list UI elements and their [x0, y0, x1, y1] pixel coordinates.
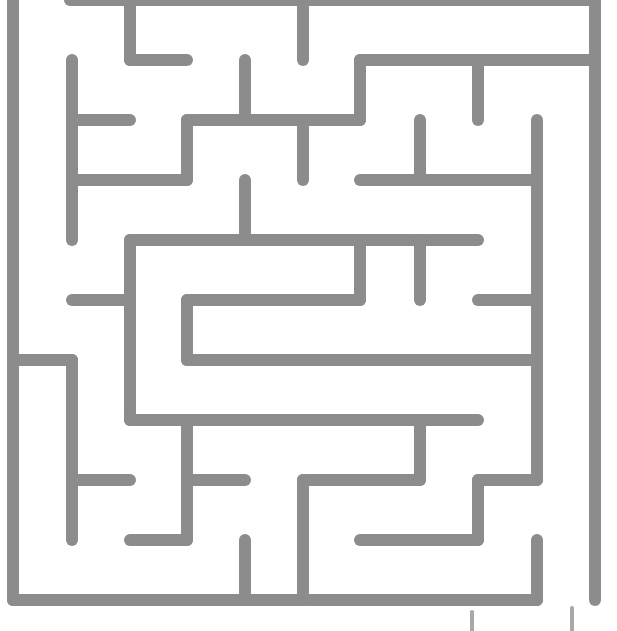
- cut-marks: [472, 608, 572, 631]
- maze-board: [0, 0, 617, 631]
- maze-walls: [13, 0, 595, 600]
